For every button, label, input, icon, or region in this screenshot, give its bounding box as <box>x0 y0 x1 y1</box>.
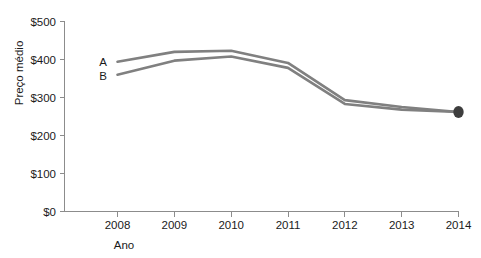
x-tick-label-2009: 2009 <box>162 219 188 231</box>
y-axis-ticks <box>60 22 65 212</box>
x-tick-label-2012: 2012 <box>332 219 358 231</box>
x-tick-label-2008: 2008 <box>105 219 131 231</box>
x-axis-ticks <box>118 212 459 217</box>
series-line-a <box>118 51 459 112</box>
series-label-b: B <box>99 70 107 82</box>
x-tick-label-2011: 2011 <box>276 219 301 231</box>
y-tick-label-300: $300 <box>30 92 56 104</box>
y-tick-label-0: $0 <box>43 206 56 218</box>
y-axis-title: Preço médio <box>13 41 25 106</box>
data-point-marker-2014 <box>453 106 463 118</box>
x-tick-label-2014: 2014 <box>446 219 472 231</box>
series-line-b <box>118 56 459 111</box>
x-axis-title: Ano <box>114 239 134 251</box>
line-chart: $500 $400 $300 $200 $100 $0 2008 2009 20… <box>0 0 481 258</box>
x-tick-label-2013: 2013 <box>389 219 415 231</box>
chart-canvas: $500 $400 $300 $200 $100 $0 2008 2009 20… <box>0 0 481 258</box>
y-tick-label-100: $100 <box>30 168 56 180</box>
y-tick-label-200: $200 <box>30 130 56 142</box>
y-tick-label-400: $400 <box>30 54 56 66</box>
series-label-a: A <box>99 56 107 68</box>
y-tick-label-500: $500 <box>30 16 56 28</box>
x-tick-label-2010: 2010 <box>218 219 244 231</box>
